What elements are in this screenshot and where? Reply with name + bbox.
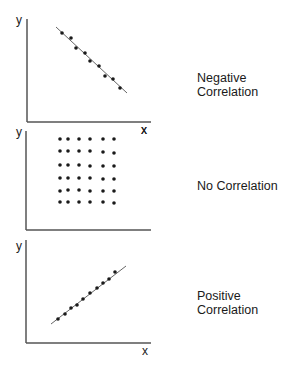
data-point xyxy=(101,189,105,193)
data-point xyxy=(118,86,122,90)
data-point xyxy=(112,189,116,193)
y-axis-label: y xyxy=(16,239,22,253)
data-point xyxy=(101,137,105,141)
data-point xyxy=(101,164,105,168)
data-point xyxy=(88,164,92,168)
caption-positive-correlation: Positive Correlation xyxy=(197,289,258,317)
data-point xyxy=(95,286,99,290)
data-point xyxy=(88,149,92,153)
data-point xyxy=(63,312,67,316)
data-point xyxy=(88,291,92,295)
caption-negative-line2: Correlation xyxy=(197,85,258,99)
data-point xyxy=(77,176,81,180)
data-point xyxy=(88,59,92,63)
data-point xyxy=(88,176,92,180)
caption-positive-line2: Correlation xyxy=(197,303,258,317)
caption-negative-correlation: Negative Correlation xyxy=(197,71,258,99)
data-point xyxy=(101,281,105,285)
x-axis-label: x xyxy=(141,123,147,137)
data-point xyxy=(81,297,85,301)
data-point xyxy=(58,137,62,141)
data-point xyxy=(66,163,70,167)
data-point xyxy=(83,51,87,55)
data-point xyxy=(58,163,62,167)
trend-line xyxy=(56,27,127,93)
data-point xyxy=(74,46,78,50)
data-point xyxy=(77,149,81,153)
data-point xyxy=(112,137,116,141)
data-point xyxy=(66,137,70,141)
data-point xyxy=(66,188,70,192)
scatter-panel-positive: yx xyxy=(16,239,151,358)
y-axis-label: y xyxy=(16,125,22,139)
data-point xyxy=(113,270,117,274)
data-point xyxy=(112,201,116,205)
data-point xyxy=(112,164,116,168)
data-point xyxy=(77,163,81,167)
x-axis-label: x xyxy=(142,344,148,358)
data-point xyxy=(66,149,70,153)
scatter-panel-none: yx xyxy=(16,123,151,230)
trend-line xyxy=(51,266,126,324)
data-point xyxy=(88,189,92,193)
data-point xyxy=(103,74,107,78)
data-point xyxy=(58,176,62,180)
data-point xyxy=(60,31,64,35)
y-axis-label: y xyxy=(16,13,22,27)
data-point xyxy=(66,200,70,204)
data-point xyxy=(69,306,73,310)
data-point xyxy=(56,317,60,321)
caption-negative-line1: Negative xyxy=(197,71,258,85)
data-point xyxy=(58,149,62,153)
data-point xyxy=(66,176,70,180)
data-point xyxy=(88,200,92,204)
caption-none-line1: No Correlation xyxy=(197,179,278,193)
data-point xyxy=(75,303,79,307)
data-point xyxy=(88,137,92,141)
data-point xyxy=(58,189,62,193)
data-point xyxy=(77,188,81,192)
data-point xyxy=(77,200,81,204)
data-point xyxy=(69,36,73,40)
data-point xyxy=(58,200,62,204)
data-point xyxy=(101,177,105,181)
data-point xyxy=(97,64,101,68)
data-point xyxy=(77,137,81,141)
data-point xyxy=(112,177,116,181)
caption-no-correlation: No Correlation xyxy=(197,179,278,193)
data-point xyxy=(101,150,105,154)
caption-positive-line1: Positive xyxy=(197,289,258,303)
data-point xyxy=(111,77,115,81)
data-point xyxy=(101,200,105,204)
data-point xyxy=(107,277,111,281)
data-point xyxy=(112,151,116,155)
scatter-panel-negative: yx xyxy=(16,13,151,137)
